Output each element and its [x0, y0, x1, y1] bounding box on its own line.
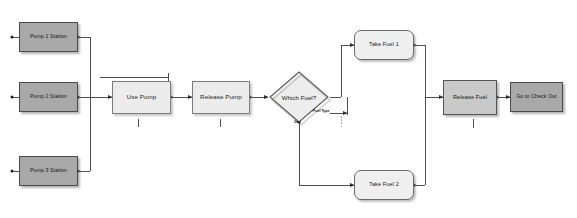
- node-label: Release Fuel: [453, 95, 487, 101]
- flowchart-canvas: Pump 1 Station Pump 2 Station Pump 3 Sta…: [0, 0, 577, 218]
- wire-decision-to-takefuel1: [330, 45, 354, 97]
- node-use-pump[interactable]: Use Pump: [112, 81, 171, 114]
- node-label: Take Fuel 1: [369, 42, 399, 48]
- node-label: Pump 1 Station: [30, 34, 67, 39]
- node-label: Pump 3 Station: [30, 168, 67, 173]
- node-label: Go to Check Out: [516, 94, 556, 99]
- node-label: Use Pump: [127, 94, 157, 101]
- node-which-fuel-decision[interactable]: Which Fuel?: [268, 70, 330, 124]
- node-take-fuel-1[interactable]: Take Fuel 1: [354, 30, 414, 60]
- node-take-fuel-2[interactable]: Take Fuel 2: [354, 170, 414, 200]
- node-go-to-check-out[interactable]: Go to Check Out: [510, 82, 563, 112]
- edge-label-gas: Gas: [294, 120, 301, 124]
- node-release-pump[interactable]: Release Pump: [192, 81, 250, 114]
- node-label: Pump 2 Station: [30, 94, 67, 99]
- wire-takefuel2-to-releasefuel: [414, 97, 425, 185]
- node-label: Which Fuel?: [268, 70, 330, 124]
- node-label: Take Fuel 2: [369, 182, 399, 188]
- wire-decision-to-takefuel2: [299, 122, 354, 185]
- node-pump-1-station[interactable]: Pump 1 Station: [19, 22, 78, 52]
- node-pump-3-station[interactable]: Pump 3 Station: [19, 156, 78, 186]
- node-pump-2-station[interactable]: Pump 2 Station: [19, 82, 78, 112]
- node-release-fuel[interactable]: Release Fuel: [443, 80, 497, 115]
- wire-pump1-to-bus: [78, 37, 90, 97]
- edge-label-fuel-type: Fuel Type: [313, 109, 330, 113]
- wire-takefuel1-to-releasefuel: [414, 45, 443, 97]
- node-label: Release Pump: [200, 94, 242, 101]
- wire-pump3-to-bus: [78, 97, 90, 171]
